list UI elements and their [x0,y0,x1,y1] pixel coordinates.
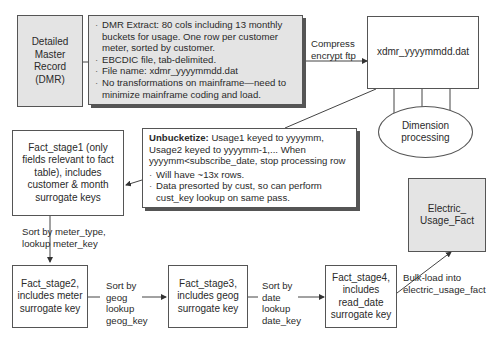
note-bullet: No transformations on mainframe—need to … [95,77,296,100]
note-bullet: Data presorted by cust, so can perform c… [149,180,350,203]
dimension-processing-label: Dimension processing [396,120,456,145]
xdmr-file-box: xdmr_yyyymmdd.dat [367,16,479,89]
note-bullet: File name: xdmr_yyyymmdd.dat [95,65,296,77]
dmr-extract-note: DMR Extract: 80 cols including 13 monthl… [88,15,303,105]
dmr-box: Detailed Master Record (DMR) [17,15,83,107]
dmr-label: Detailed Master Record (DMR) [18,36,82,86]
fact-stage3-label: Fact_stage3, includes geog surrogate key [169,278,247,316]
bulk-load-label: Bulk-load into electric_usage_fact [403,272,493,295]
fact-stage4-box: Fact_stage4, includes read_date surrogat… [325,265,397,328]
fact-stage1-label: Fact_stage1 (only fields relevant to fac… [13,142,123,205]
fact-stage3-box: Fact_stage3, includes geog surrogate key [168,265,248,328]
note-bullet: Will have ~13x rows. [149,169,350,181]
compress-encrypt-label: Compress encrypt ftp [311,38,367,61]
unbucketize-title: Unbucketize: [149,132,209,143]
dimension-processing-node: Dimension processing [378,106,473,158]
note-bullet: EBCDIC file, tab-delimited. [95,54,296,66]
fact-stage2-box: Fact_stage2, includes meter surrogate ke… [12,265,88,328]
xdmr-file-label: xdmr_yyyymmdd.dat [377,46,469,59]
fact-stage4-label: Fact_stage4, includes read_date surrogat… [326,272,396,322]
electric-usage-fact-box: Electric_ Usage_Fact [408,178,486,252]
sort-date-label: Sort by date lookup date_key [262,280,302,326]
unbucketize-text: Unbucketize: Usage1 keyed to yyyymm, Usa… [149,132,350,167]
sort-meter-label: Sort by meter_type, lookup meter_key [22,226,132,249]
fact-stage1-box: Fact_stage1 (only fields relevant to fac… [12,130,124,216]
fact-stage2-label: Fact_stage2, includes meter surrogate ke… [13,278,87,316]
electric-usage-fact-label: Electric_ Usage_Fact [419,203,475,228]
unbucketize-note: Unbucketize: Usage1 keyed to yyyymm, Usa… [142,128,357,208]
note-bullet: DMR Extract: 80 cols including 13 monthl… [95,19,296,54]
sort-geog-label: Sort by geog lookup geog_key [106,280,146,326]
